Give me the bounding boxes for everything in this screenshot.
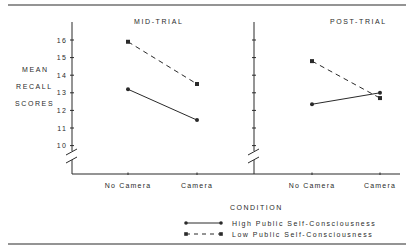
y-tick-label-16: 16 — [57, 37, 67, 44]
y-axis-label-line-1: MEAN — [22, 66, 49, 73]
data-point-high-post-0 — [310, 102, 314, 106]
panel-title-post-trial: POST-TRIAL — [330, 18, 387, 25]
x-tick-label-camera-post: Camera — [364, 182, 396, 189]
y-tick-label-14: 14 — [57, 72, 67, 79]
legend-label-low: Low Public Self-Consciousness — [232, 231, 373, 238]
y-tick-label-11: 11 — [57, 125, 67, 132]
y-tick-label-13: 13 — [57, 89, 67, 96]
x-tick-label-no-camera-mid: No Camera — [105, 182, 152, 189]
y-tick-label-12: 12 — [57, 107, 67, 114]
series-line-high-post — [312, 93, 380, 104]
data-point-low-post-0 — [310, 59, 314, 63]
data-point-low-mid-1 — [195, 82, 199, 86]
data-point-low-mid-0 — [126, 40, 130, 44]
y-tick-label-15: 15 — [57, 54, 67, 61]
series-line-low-mid — [128, 42, 197, 84]
x-tick-label-camera-mid: Camera — [181, 182, 213, 189]
legend-marker-high-left — [184, 221, 188, 225]
series-line-low-post — [312, 61, 380, 98]
legend-marker-low-left — [184, 232, 188, 236]
data-point-high-mid-1 — [195, 118, 199, 122]
series-line-high-mid — [128, 89, 197, 120]
legend-marker-high-right — [219, 221, 223, 225]
y-axis-label-line-3: SCORES — [15, 100, 54, 107]
chart-figure: MEAN RECALL SCORES MID-TRIAL POST-TRIAL … — [0, 0, 412, 251]
data-point-low-post-1 — [378, 96, 382, 100]
legend-marker-low-right — [219, 232, 223, 236]
x-axis-title: CONDITION — [230, 204, 283, 211]
legend-label-high: High Public Self-Consciousness — [232, 220, 376, 228]
data-point-high-post-1 — [378, 91, 382, 95]
y-tick-label-10: 10 — [57, 142, 67, 149]
data-point-high-mid-0 — [126, 87, 130, 91]
y-axis-label-line-2: RECALL — [16, 83, 53, 90]
x-tick-label-no-camera-post: No Camera — [289, 182, 336, 189]
panel-title-mid-trial: MID-TRIAL — [134, 18, 183, 25]
